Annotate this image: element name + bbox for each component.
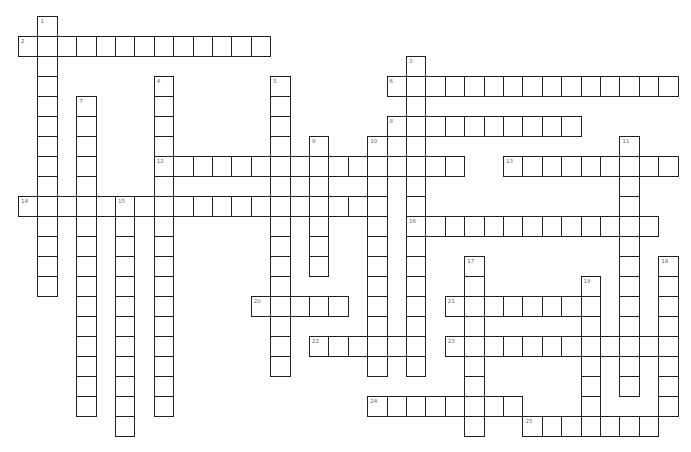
crossword-cell[interactable] [193, 36, 213, 57]
crossword-cell[interactable] [76, 116, 96, 137]
crossword-cell[interactable] [367, 236, 387, 257]
crossword-cell[interactable] [115, 296, 135, 317]
crossword-cell[interactable] [542, 156, 562, 177]
crossword-cell[interactable] [542, 116, 562, 137]
crossword-cell[interactable] [154, 356, 174, 377]
crossword-cell[interactable] [270, 116, 290, 137]
crossword-cell[interactable] [561, 156, 581, 177]
crossword-cell[interactable] [464, 76, 484, 97]
crossword-cell[interactable]: 16 [406, 216, 426, 237]
crossword-cell[interactable] [76, 196, 96, 217]
crossword-cell[interactable] [367, 356, 387, 377]
crossword-cell[interactable] [464, 396, 484, 417]
crossword-cell[interactable] [581, 356, 601, 377]
crossword-cell[interactable] [309, 296, 329, 317]
crossword-cell[interactable] [503, 116, 523, 137]
crossword-cell[interactable] [115, 256, 135, 277]
crossword-cell[interactable] [425, 216, 445, 237]
crossword-cell[interactable] [406, 136, 426, 157]
crossword-cell[interactable] [96, 36, 116, 57]
crossword-cell[interactable] [115, 356, 135, 377]
crossword-cell[interactable] [581, 316, 601, 337]
crossword-cell[interactable] [619, 296, 639, 317]
crossword-cell[interactable] [464, 216, 484, 237]
crossword-cell[interactable] [406, 256, 426, 277]
crossword-cell[interactable] [367, 256, 387, 277]
crossword-cell[interactable] [522, 216, 542, 237]
crossword-cell[interactable]: 24 [367, 396, 387, 417]
crossword-cell[interactable] [367, 176, 387, 197]
crossword-cell[interactable] [581, 416, 601, 437]
crossword-cell[interactable] [658, 396, 678, 417]
crossword-cell[interactable] [425, 76, 445, 97]
crossword-cell[interactable] [154, 196, 174, 217]
crossword-cell[interactable] [231, 36, 251, 57]
crossword-cell[interactable] [154, 96, 174, 117]
crossword-cell[interactable] [290, 156, 310, 177]
crossword-cell[interactable] [503, 396, 523, 417]
crossword-cell[interactable] [619, 216, 639, 237]
crossword-cell[interactable] [37, 156, 57, 177]
crossword-cell[interactable] [37, 116, 57, 137]
crossword-cell[interactable] [542, 336, 562, 357]
crossword-cell[interactable] [154, 376, 174, 397]
crossword-cell[interactable] [387, 156, 407, 177]
crossword-cell[interactable] [561, 216, 581, 237]
crossword-cell[interactable] [561, 116, 581, 137]
crossword-cell[interactable] [658, 356, 678, 377]
crossword-cell[interactable] [619, 416, 639, 437]
crossword-cell[interactable] [309, 176, 329, 197]
crossword-cell[interactable] [619, 336, 639, 357]
crossword-cell[interactable] [445, 116, 465, 137]
crossword-cell[interactable] [309, 216, 329, 237]
crossword-cell[interactable] [425, 156, 445, 177]
crossword-cell[interactable] [639, 336, 659, 357]
crossword-cell[interactable] [115, 236, 135, 257]
crossword-cell[interactable] [76, 216, 96, 237]
crossword-cell[interactable] [464, 356, 484, 377]
crossword-cell[interactable] [57, 196, 77, 217]
crossword-cell[interactable] [639, 76, 659, 97]
crossword-cell[interactable] [270, 296, 290, 317]
crossword-cell[interactable] [619, 276, 639, 297]
crossword-cell[interactable] [270, 96, 290, 117]
crossword-cell[interactable] [37, 256, 57, 277]
crossword-cell[interactable] [115, 36, 135, 57]
crossword-cell[interactable] [173, 196, 193, 217]
crossword-cell[interactable] [154, 216, 174, 237]
crossword-cell[interactable]: 21 [445, 296, 465, 317]
crossword-cell[interactable] [406, 336, 426, 357]
crossword-cell[interactable] [542, 76, 562, 97]
crossword-cell[interactable] [154, 276, 174, 297]
crossword-cell[interactable] [270, 156, 290, 177]
crossword-cell[interactable] [484, 116, 504, 137]
crossword-cell[interactable]: 17 [464, 256, 484, 277]
crossword-cell[interactable] [639, 216, 659, 237]
crossword-cell[interactable] [658, 336, 678, 357]
crossword-cell[interactable] [503, 296, 523, 317]
crossword-cell[interactable] [328, 196, 348, 217]
crossword-cell[interactable]: 2 [18, 36, 38, 57]
crossword-cell[interactable] [581, 396, 601, 417]
crossword-cell[interactable] [619, 236, 639, 257]
crossword-cell[interactable]: 1 [37, 16, 57, 37]
crossword-cell[interactable] [619, 316, 639, 337]
crossword-cell[interactable] [115, 316, 135, 337]
crossword-cell[interactable] [115, 376, 135, 397]
crossword-cell[interactable] [251, 196, 271, 217]
crossword-cell[interactable] [270, 236, 290, 257]
crossword-cell[interactable]: 6 [387, 76, 407, 97]
crossword-cell[interactable] [581, 376, 601, 397]
crossword-cell[interactable] [270, 316, 290, 337]
crossword-cell[interactable] [600, 416, 620, 437]
crossword-cell[interactable] [134, 36, 154, 57]
crossword-cell[interactable] [406, 156, 426, 177]
crossword-cell[interactable] [406, 196, 426, 217]
crossword-cell[interactable] [367, 336, 387, 357]
crossword-cell[interactable] [367, 156, 387, 177]
crossword-cell[interactable] [309, 156, 329, 177]
crossword-cell[interactable] [619, 176, 639, 197]
crossword-cell[interactable] [639, 156, 659, 177]
crossword-cell[interactable]: 3 [406, 56, 426, 77]
crossword-cell[interactable] [367, 316, 387, 337]
